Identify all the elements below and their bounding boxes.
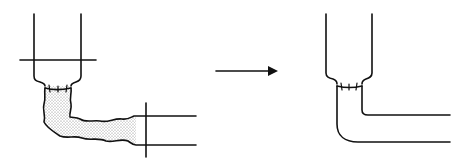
after-curved-tube-inner-wall	[362, 86, 450, 115]
segment-inner-wall	[70, 88, 196, 121]
transformation-arrow	[216, 66, 278, 76]
diagram-canvas	[0, 0, 469, 161]
before-panel	[20, 14, 196, 157]
after-panel	[326, 14, 450, 142]
stitch	[341, 83, 342, 90]
arrow-head-icon	[268, 66, 278, 76]
stitch	[356, 83, 357, 90]
vertical-tube-left-wall	[34, 14, 45, 86]
after-curved-tube-outer-wall	[337, 86, 450, 142]
stippled-segment	[43, 86, 136, 145]
after-vertical-tube-left-wall	[326, 14, 337, 84]
diagram-svg	[0, 0, 469, 161]
vertical-tube-right-wall	[71, 14, 81, 86]
after-vertical-tube-right-wall	[362, 14, 372, 84]
